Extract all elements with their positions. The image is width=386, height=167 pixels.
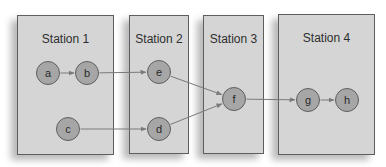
station-1-title: Station 1 <box>18 32 113 46</box>
node-d: d <box>147 117 171 141</box>
station-4-title: Station 4 <box>279 31 374 45</box>
node-f: f <box>222 87 246 111</box>
station-3-box: Station 3 <box>203 15 264 154</box>
node-d-label: d <box>156 124 162 135</box>
station-4-box: Station 4 <box>278 14 375 155</box>
node-h-label: h <box>344 95 350 106</box>
node-b: b <box>75 61 99 85</box>
node-a-label: a <box>45 68 51 79</box>
node-c-label: c <box>65 124 71 135</box>
node-b-label: b <box>84 68 90 79</box>
node-c: c <box>56 117 80 141</box>
node-h: h <box>335 88 359 112</box>
node-a: a <box>36 61 60 85</box>
node-g: g <box>296 88 320 112</box>
node-e: e <box>147 60 171 84</box>
node-g-label: g <box>305 95 311 106</box>
station-2-title: Station 2 <box>130 32 188 46</box>
node-f-label: f <box>232 94 235 105</box>
station-3-title: Station 3 <box>204 32 263 46</box>
node-e-label: e <box>156 67 162 78</box>
